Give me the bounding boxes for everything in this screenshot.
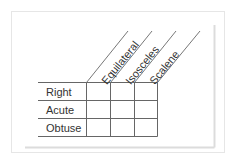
cell-obtuse-equilateral xyxy=(87,119,110,136)
row-header-obtuse: Obtuse xyxy=(46,119,81,137)
triangle-classification-diagram: Equilateral Isosceles Scalene Right Acut… xyxy=(0,0,235,163)
cell-acute-equilateral xyxy=(87,101,110,118)
row-header-right: Right xyxy=(46,83,72,101)
cell-right-scalene xyxy=(135,83,158,100)
row-header-acute: Acute xyxy=(46,101,74,119)
cell-acute-isosceles xyxy=(111,101,134,118)
cell-acute-scalene xyxy=(135,101,158,118)
cell-obtuse-scalene xyxy=(135,119,158,136)
cell-obtuse-isosceles xyxy=(111,119,134,136)
diagram-lines xyxy=(0,0,235,163)
cell-right-isosceles xyxy=(111,83,134,100)
cell-right-equilateral xyxy=(87,83,110,100)
